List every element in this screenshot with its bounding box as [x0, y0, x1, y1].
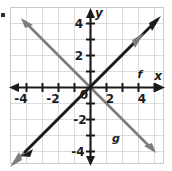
x-tick-label-neg4: -4 [14, 92, 27, 106]
y-tick-label-neg4: -4 [71, 145, 84, 159]
graph-canvas: -4 -2 2 4 4 2 -2 -4 0 y x f g [0, 0, 172, 171]
function-label-g: g [112, 132, 120, 145]
y-tick-label-2: 2 [75, 49, 83, 63]
x-tick-label-2: 2 [106, 92, 114, 106]
y-tick-label-4: 4 [75, 17, 83, 31]
bullet-marker-icon [1, 13, 5, 17]
origin-label: 0 [80, 88, 88, 102]
y-axis-label: y [95, 6, 104, 20]
x-axis-label: x [153, 69, 163, 83]
x-tick-label-4: 4 [138, 92, 146, 106]
x-tick-label-neg2: -2 [46, 92, 59, 106]
coordinate-plane-figure: -4 -2 2 4 4 2 -2 -4 0 y x f g [0, 0, 172, 171]
y-tick-label-neg2: -2 [73, 113, 86, 127]
